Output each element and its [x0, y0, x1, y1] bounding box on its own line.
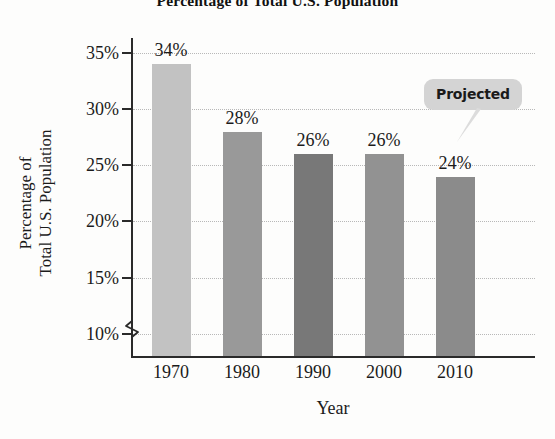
- y-axis-tick-label: 30%: [86, 99, 119, 120]
- bar-value-label: 28%: [226, 108, 259, 129]
- y-axis-title-line-1: Percentage of: [16, 129, 36, 276]
- bar-value-label: 24%: [439, 153, 472, 174]
- chart-title: Percentage of Total U.S. Population: [0, 0, 555, 10]
- bar-chart: Percentage of Total U.S. Population Perc…: [0, 0, 555, 439]
- x-axis-title: Year: [131, 398, 535, 419]
- x-axis-tick-label: 1980: [224, 362, 260, 383]
- axis-break-icon: [123, 314, 141, 340]
- y-axis-tick: [122, 52, 133, 54]
- bar: 28%: [223, 132, 262, 356]
- gridline: [133, 278, 535, 279]
- bar: 24%: [436, 177, 475, 356]
- y-axis-line: [131, 38, 133, 358]
- gridline: [133, 53, 535, 54]
- y-axis-title-line-2: Total U.S. Population: [36, 129, 56, 276]
- y-axis-tick-label: 25%: [86, 155, 119, 176]
- y-axis-tick: [122, 277, 133, 279]
- x-axis-tick-label: 2010: [437, 362, 473, 383]
- y-axis-tick: [122, 108, 133, 110]
- y-axis-tick-label: 10%: [86, 323, 119, 344]
- y-axis-tick: [122, 220, 133, 222]
- y-axis-tick-label: 15%: [86, 267, 119, 288]
- bar: 26%: [365, 154, 404, 356]
- bar-value-label: 26%: [368, 130, 401, 151]
- gridline: [133, 221, 535, 222]
- gridline: [133, 165, 535, 166]
- x-axis-tick-label: 1990: [295, 362, 331, 383]
- bar-value-label: 34%: [155, 40, 188, 61]
- bar-value-label: 26%: [297, 130, 330, 151]
- x-axis-tick-label: 1970: [153, 362, 189, 383]
- projected-callout-tail: [455, 108, 481, 142]
- y-axis-tick-label: 35%: [86, 43, 119, 64]
- x-axis-line: [131, 356, 535, 358]
- y-axis-tick: [122, 164, 133, 166]
- gridline: [133, 334, 535, 335]
- y-axis-tick-label: 20%: [86, 211, 119, 232]
- projected-callout-label: Projected: [424, 79, 522, 110]
- projected-callout: Projected: [424, 79, 522, 110]
- bar: 26%: [294, 154, 333, 356]
- bar: 34%: [152, 64, 191, 356]
- y-axis-title: Percentage of Total U.S. Population: [16, 88, 56, 318]
- x-axis-tick-label: 2000: [366, 362, 402, 383]
